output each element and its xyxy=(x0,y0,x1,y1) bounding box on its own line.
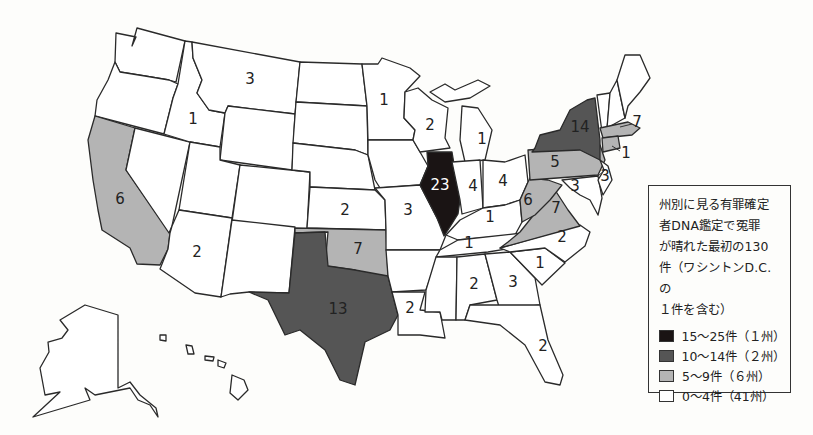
label-north-carolina: 2 xyxy=(557,228,567,246)
label-idaho: 1 xyxy=(188,110,198,128)
label-virginia: 7 xyxy=(551,199,561,217)
label-pennsylvania: 5 xyxy=(550,153,560,171)
state-north-dakota xyxy=(296,62,367,106)
label-kentucky: 1 xyxy=(485,208,495,226)
state-michigan xyxy=(460,106,492,162)
legend-title-line: が晴れた最初の130 xyxy=(659,236,782,257)
legend-title-line: １件を含む） xyxy=(659,299,782,320)
label-georgia: 3 xyxy=(508,273,518,291)
label-michigan: 1 xyxy=(477,130,487,148)
legend-title-line: 者DNA鑑定で冤罪 xyxy=(659,215,782,236)
label-missouri: 3 xyxy=(403,201,413,219)
legend-item-label: 0〜4件（41州） xyxy=(682,387,774,405)
legend-item-tier3: 5〜9件（６州） xyxy=(659,366,782,386)
label-kansas: 2 xyxy=(340,201,350,219)
swatch-icon xyxy=(659,390,674,402)
legend-item-tier2: 10〜14件（２州） xyxy=(659,346,782,366)
label-oklahoma: 7 xyxy=(353,240,363,258)
state-hawaii xyxy=(160,335,248,400)
state-new-mexico xyxy=(221,220,295,297)
label-south-carolina: 1 xyxy=(535,254,545,272)
state-new-york xyxy=(532,98,600,160)
swatch-icon xyxy=(659,330,674,342)
swatch-icon xyxy=(659,370,674,382)
legend-item-label: 10〜14件（２州） xyxy=(682,347,782,365)
label-louisiana: 2 xyxy=(405,299,415,317)
label-montana: 3 xyxy=(245,70,255,88)
label-maryland: 3 xyxy=(570,177,580,195)
legend: 州別に見る有罪確定 者DNA鑑定で冤罪 が晴れた最初の130 件（ワシントンD.… xyxy=(648,185,791,393)
label-connecticut: 1 xyxy=(621,144,631,162)
label-ohio: 4 xyxy=(498,172,508,190)
label-massachusetts: 7 xyxy=(632,113,642,131)
label-wisconsin: 2 xyxy=(425,116,435,134)
state-alaska xyxy=(33,305,158,417)
state-colorado xyxy=(232,165,310,230)
label-texas: 13 xyxy=(328,300,347,318)
legend-item-label: 5〜9件（６州） xyxy=(682,367,770,385)
legend-title-line: 件（ワシントンD.C.の xyxy=(659,257,782,299)
label-california: 6 xyxy=(115,190,125,208)
label-alabama: 2 xyxy=(469,275,479,293)
legend-item-label: 15〜25件（１州） xyxy=(682,327,782,345)
label-new-jersey: 3 xyxy=(600,167,610,185)
label-new-york: 14 xyxy=(570,118,589,136)
state-florida xyxy=(465,305,563,385)
legend-title: 州別に見る有罪確定 者DNA鑑定で冤罪 が晴れた最初の130 件（ワシントンD.… xyxy=(659,194,782,320)
label-illinois: 23 xyxy=(430,176,449,194)
legend-title-line: 州別に見る有罪確定 xyxy=(659,194,782,215)
label-tennessee: 1 xyxy=(464,234,474,252)
label-minnesota: 1 xyxy=(379,91,389,109)
label-florida: 2 xyxy=(538,337,548,355)
swatch-icon xyxy=(659,350,674,362)
state-michigan-upper xyxy=(430,80,490,102)
legend-item-tier4: 0〜4件（41州） xyxy=(659,386,782,406)
label-west-virginia: 6 xyxy=(523,191,533,209)
legend-item-tier1: 15〜25件（１州） xyxy=(659,326,782,346)
label-indiana: 4 xyxy=(468,177,478,195)
state-wyoming xyxy=(220,106,295,170)
label-arizona: 2 xyxy=(192,243,202,261)
